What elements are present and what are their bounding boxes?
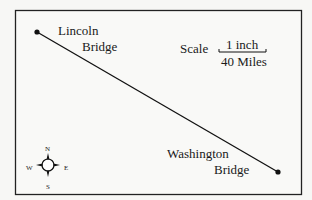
washington-bridge-point — [275, 169, 280, 174]
compass-east-label: E — [64, 161, 68, 175]
map-canvas — [0, 0, 312, 200]
scale-real-distance: 40 Miles — [221, 55, 267, 69]
scale-label: Scale — [180, 42, 208, 56]
lincoln-bridge-point — [34, 29, 39, 34]
compass-south-label: S — [46, 180, 50, 194]
compass-north-label: N — [45, 142, 50, 156]
washington-label-line2: Bridge — [214, 163, 249, 177]
lincoln-label-line2: Bridge — [82, 40, 117, 54]
lincoln-label-line1: Lincoln — [58, 24, 98, 38]
washington-label-line1: Washington — [167, 147, 229, 161]
scale-map-distance: 1 inch — [226, 38, 258, 52]
compass-west-label: W — [26, 161, 33, 175]
